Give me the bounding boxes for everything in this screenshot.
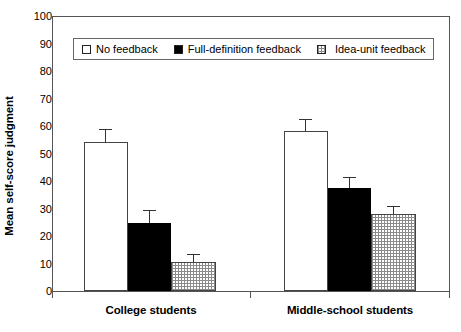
- error-bar-middle-school-no-feedback: [305, 120, 306, 131]
- y-tick-label: 60: [24, 120, 52, 132]
- error-bar-cap: [299, 119, 312, 120]
- error-bar-college-idea-unit-feedback: [193, 255, 194, 262]
- dotted-square-icon: [317, 45, 326, 54]
- y-tick-label: 30: [24, 203, 52, 215]
- y-tick-label: 40: [24, 175, 52, 187]
- legend-label: Idea-unit feedback: [335, 43, 426, 55]
- bar-middle-school-no-feedback: [284, 131, 328, 291]
- y-tick-label: 20: [24, 230, 52, 242]
- error-bar-cap: [343, 177, 356, 178]
- y-tick-label: 80: [24, 65, 52, 77]
- bar-college-idea-unit-feedback: [171, 262, 216, 291]
- y-tick-label: 90: [24, 38, 52, 50]
- black-square-icon: [174, 45, 183, 54]
- legend-item-no-feedback: No feedback: [82, 43, 158, 55]
- error-bar-cap: [143, 210, 156, 211]
- y-tick-label: 50: [24, 148, 52, 160]
- error-bar-cap: [187, 254, 200, 255]
- legend-item-full-definition-feedback: Full-definition feedback: [174, 43, 301, 55]
- bar-middle-school-full-definition-feedback: [328, 188, 371, 292]
- y-tick-label: 0: [24, 285, 52, 297]
- legend-item-idea-unit-feedback: Idea-unit feedback: [317, 43, 426, 55]
- x-category-label-middle-school-students: Middle-school students: [250, 304, 450, 316]
- error-bar-middle-school-idea-unit-feedback: [393, 207, 394, 214]
- bar-chart-figure: Mean self-score judgment 100 90 80 70 60…: [0, 0, 461, 332]
- bar-college-no-feedback: [84, 142, 128, 291]
- legend-label: No feedback: [96, 43, 158, 55]
- error-bar-college-full-definition-feedback: [149, 211, 150, 223]
- x-axis-end-tick: [449, 292, 450, 298]
- y-axis-tick-labels: 100 90 80 70 60 50 40 30 20 10 0: [16, 0, 52, 332]
- bar-college-full-definition-feedback: [128, 223, 171, 291]
- bar-middle-school-idea-unit-feedback: [371, 214, 416, 291]
- x-axis-group-separator-tick: [250, 292, 251, 298]
- x-category-label-college-students: College students: [52, 304, 250, 316]
- error-bar-college-no-feedback: [105, 130, 106, 142]
- error-bar-middle-school-full-definition-feedback: [349, 178, 350, 188]
- chart-legend: No feedback Full-definition feedback Ide…: [73, 38, 434, 60]
- y-tick-label: 10: [24, 258, 52, 270]
- x-axis-start-tick: [52, 292, 53, 298]
- y-tick-label: 70: [24, 93, 52, 105]
- legend-label: Full-definition feedback: [188, 43, 301, 55]
- white-square-icon: [82, 45, 91, 54]
- error-bar-cap: [99, 129, 112, 130]
- y-tick-label: 100: [24, 10, 52, 22]
- error-bar-cap: [387, 206, 400, 207]
